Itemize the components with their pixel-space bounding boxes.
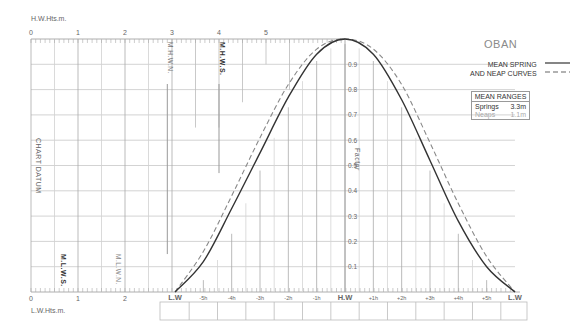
neaps-row: Neaps 1.1m [472,110,529,119]
svg-text:-5h: -5h [199,295,207,301]
springs-value: 3.3m [510,103,526,110]
grid [31,39,520,292]
svg-text:L.W.Hts.m.: L.W.Hts.m. [31,307,65,314]
svg-text:M.L.W.N.: M.L.W.N. [115,254,122,285]
svg-text:M.H.W.N.: M.H.W.N. [167,42,174,74]
svg-text:H.W: H.W [338,293,354,302]
svg-text:0: 0 [29,295,33,302]
svg-text:L.W: L.W [168,293,183,302]
svg-text:0.8: 0.8 [348,86,357,93]
svg-text:0.6: 0.6 [348,137,357,144]
svg-text:5: 5 [264,29,268,36]
svg-text:+3h: +3h [425,295,434,301]
svg-text:2: 2 [123,29,127,36]
neaps-label: Neaps [475,111,495,118]
svg-text:3: 3 [170,29,174,36]
springs-label: Springs [475,103,499,110]
svg-text:0.1: 0.1 [348,263,357,270]
svg-text:-2h: -2h [284,295,292,301]
svg-text:-3h: -3h [256,295,264,301]
svg-text:-1h: -1h [313,295,321,301]
svg-text:0.9: 0.9 [348,61,357,68]
springs-row: Springs 3.3m [472,102,529,110]
svg-text:Factor: Factor [354,148,361,171]
time-entry-table [160,302,527,320]
legend: MEAN SPRING AND NEAP CURVES [470,60,537,78]
svg-text:M.L.W.S.: M.L.W.S. [60,254,67,287]
level-markers [167,84,219,254]
svg-text:CHART DATUM: CHART DATUM [35,138,42,194]
svg-text:1: 1 [76,295,80,302]
svg-text:0.7: 0.7 [348,111,357,118]
svg-text:0.2: 0.2 [348,238,357,245]
station-name: OBAN [484,38,517,50]
svg-text:M.H.W.S.: M.H.W.S. [219,42,226,76]
svg-text:H.W.Hts.m.: H.W.Hts.m. [31,15,66,22]
svg-text:4: 4 [217,29,221,36]
svg-text:+1h: +1h [369,295,378,301]
svg-text:L.W: L.W [508,293,523,302]
svg-text:+2h: +2h [397,295,406,301]
svg-text:0.3: 0.3 [348,213,357,220]
legend-line-1: MEAN SPRING [470,60,537,69]
svg-text:+5h: +5h [482,295,491,301]
svg-text:0.4: 0.4 [348,187,357,194]
tidal-curve-diagram: H.W.Hts.m.012345012L.W.Hts.m.0.10.20.30.… [0,0,579,334]
svg-text:0: 0 [29,29,33,36]
svg-text:+4h: +4h [454,295,463,301]
legend-line-2: AND NEAP CURVES [470,69,537,78]
mean-ranges-header: MEAN RANGES [472,92,529,102]
mean-ranges-box: MEAN RANGES Springs 3.3m Neaps 1.1m [471,91,530,120]
neaps-value: 1.1m [510,111,526,118]
svg-text:1: 1 [76,29,80,36]
axis-labels: H.W.Hts.m.012345012L.W.Hts.m.0.10.20.30.… [29,15,523,314]
svg-text:2: 2 [123,295,127,302]
svg-text:-4h: -4h [228,295,236,301]
